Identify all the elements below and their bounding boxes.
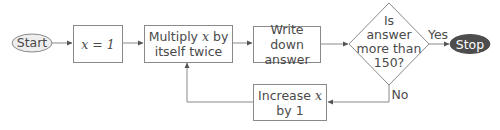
write-label-line2: answer	[264, 52, 309, 67]
arrow-increase-to-multiply	[187, 63, 253, 102]
edge-label-no: No	[391, 87, 409, 102]
process-write-answer: Write down answer	[253, 26, 321, 63]
stop-label: Stop	[450, 37, 490, 52]
decision-line4: 150?	[349, 56, 429, 70]
decision-label: Is answer more than 150?	[349, 14, 429, 70]
decision-line2: answer	[349, 28, 429, 42]
process-multiply: Multiply x by itself twice	[144, 25, 233, 63]
multiply-text: Multiply	[149, 29, 202, 44]
edge-label-yes: Yes	[427, 27, 449, 42]
write-label-line1: Write down	[254, 22, 320, 52]
multiply-text-post: by	[209, 29, 228, 44]
decision-line1: Is	[349, 14, 429, 28]
process-increase-x: Increase x by 1	[253, 84, 327, 121]
increase-label-line1: Increase x	[258, 88, 322, 103]
decision-line3: more than	[349, 42, 429, 56]
arrow-decision-to-increase	[328, 85, 389, 102]
multiply-label-line2: itself twice	[155, 44, 223, 59]
increase-text: Increase	[258, 88, 315, 103]
increase-var: x	[315, 88, 322, 103]
process-set-x: x = 1	[73, 25, 123, 63]
multiply-var: x	[202, 29, 209, 44]
start-label: Start	[12, 35, 52, 50]
set-x-label: x = 1	[81, 37, 114, 52]
multiply-label-line1: Multiply x by	[149, 29, 229, 44]
increase-label-line2: by 1	[276, 103, 303, 118]
